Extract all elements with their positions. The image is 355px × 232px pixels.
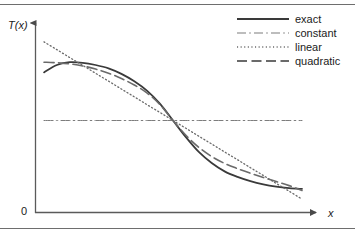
legend-label: exact [290,14,321,25]
legend-swatch-linear [236,41,290,53]
legend-item-exact[interactable]: exact [236,12,354,26]
legend-swatch-exact [236,13,290,25]
legend-label: constant [290,28,337,39]
legend-item-linear[interactable]: linear [236,40,354,54]
x-axis-label: x [328,208,334,219]
legend-label: quadratic [290,56,340,67]
y-axis-label: T(x) [8,20,28,31]
origin-tick-label: 0 [21,206,27,217]
legend-swatch-constant [236,27,290,39]
legend-item-quadratic[interactable]: quadratic [236,54,354,68]
figure-container: T(x) x 0 exactconstantlinearquadratic [0,0,355,232]
curve-quadratic [44,62,302,190]
legend-item-constant[interactable]: constant [236,26,354,40]
legend-swatch-quadratic [236,55,290,67]
legend-label: linear [290,42,322,53]
curve-exact [44,62,302,189]
legend: exactconstantlinearquadratic [236,12,354,68]
